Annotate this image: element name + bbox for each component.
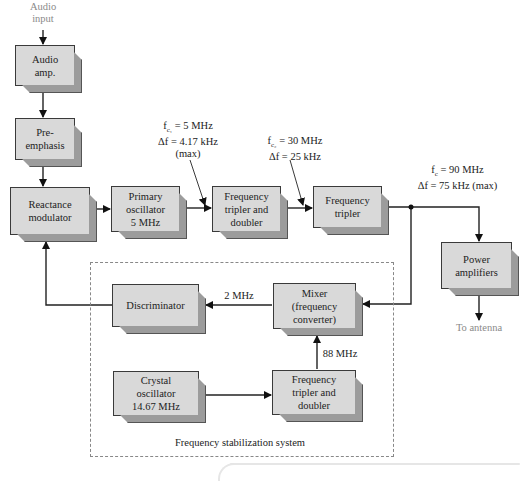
- block-frequency-tripler: Frequencytripler: [313, 186, 382, 228]
- deviation-note: (max): [148, 148, 228, 160]
- block-text: converter): [292, 313, 337, 326]
- block-text: Mixer: [292, 287, 337, 300]
- block-text: emphasis: [25, 139, 64, 152]
- block-text: Frequency: [224, 190, 268, 203]
- block-reactance-modulator: Reactancemodulator: [10, 187, 90, 235]
- block-text: doubler: [224, 216, 268, 229]
- block-text: oscillator: [126, 203, 165, 216]
- mixer-input-frequency-label: 88 MHz: [320, 348, 360, 360]
- block-text: tripler and: [292, 386, 336, 399]
- block-primary-oscillator: Primaryoscillator5 MHz: [111, 186, 180, 232]
- block-text: Frequency: [325, 194, 369, 207]
- block-discriminator: Discriminator: [112, 284, 199, 327]
- block-text: 5 MHz: [126, 216, 165, 229]
- block-audio-amp: Audioamp.: [15, 45, 75, 86]
- block-text: Audio: [32, 53, 58, 66]
- block-power-amplifiers: Poweramplifiers: [441, 242, 512, 289]
- audio-input-label-line2: input: [23, 13, 63, 25]
- fc-value: = 30 MHz: [277, 135, 323, 146]
- block-text: oscillator: [132, 387, 180, 400]
- block-text: tripler and: [224, 203, 268, 216]
- block-crystal-oscillator: Crystaloscillator14.67 MHz: [113, 371, 199, 416]
- block-text: tripler: [325, 207, 369, 220]
- block-mixer: Mixer(frequencyconverter): [273, 283, 356, 329]
- block-text: Pre-: [25, 126, 64, 139]
- block-text: Primary: [126, 190, 165, 203]
- block-text: Crystal: [132, 374, 180, 387]
- deviation-value: Δf = 75 kHz (max): [400, 180, 515, 192]
- block-frequency-tripler-doubler-bottom: Frequencytripler anddoubler: [272, 370, 356, 415]
- deviation-value: Δf = 25 kHz: [255, 151, 335, 163]
- fc-value: = 90 MHz: [438, 164, 484, 175]
- block-text: amp.: [32, 66, 58, 79]
- mixer-output-frequency-label: 2 MHz: [219, 290, 259, 302]
- block-text: Frequency: [292, 373, 336, 386]
- block-text: Discriminator: [126, 299, 184, 312]
- block-text: amplifiers: [455, 266, 498, 279]
- block-text: Power: [455, 253, 498, 266]
- block-text: doubler: [292, 399, 336, 412]
- block-text: modulator: [28, 211, 71, 224]
- deviation-value: Δf = 4.17 kHz: [148, 136, 228, 148]
- annotation-fc1: fc₁ = 5 MHz Δf = 4.17 kHz (max): [148, 120, 228, 160]
- subsystem-label: Frequency stabilization system: [160, 437, 320, 449]
- annotation-fc3: fc = 90 MHz Δf = 75 kHz (max): [400, 164, 515, 192]
- block-text: (frequency: [292, 300, 337, 313]
- audio-input-label: Audio input: [23, 1, 63, 25]
- block-frequency-tripler-doubler-top: Frequencytripler anddoubler: [212, 186, 281, 232]
- fc-value: = 5 MHz: [172, 120, 213, 131]
- block-text: 14.67 MHz: [132, 400, 180, 413]
- block-text: Reactance: [28, 198, 71, 211]
- audio-input-label-line1: Audio: [23, 1, 63, 13]
- block-pre-emphasis: Pre-emphasis: [15, 118, 75, 160]
- junction-dot: [409, 205, 414, 210]
- to-antenna-label: To antenna: [446, 322, 512, 334]
- annotation-fc2: fc₂ = 30 MHz Δf = 25 kHz: [255, 135, 335, 163]
